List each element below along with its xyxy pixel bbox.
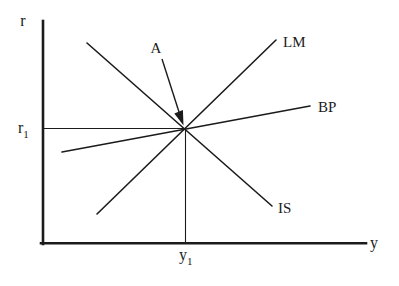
is-curve-label: IS: [278, 200, 291, 216]
vertical-axis-label: r: [20, 12, 26, 29]
point-a-label: A: [151, 40, 162, 56]
diagram-canvas: r y A LM BP IS r1 y1: [0, 0, 399, 286]
y1-tick-subscript: 1: [187, 255, 193, 267]
horizontal-axis-label: y: [370, 234, 378, 252]
lm-curve-label: LM: [283, 34, 306, 50]
bp-curve-label: BP: [318, 99, 336, 115]
r1-tick-subscript: 1: [23, 128, 29, 140]
y1-tick-label: y1: [179, 246, 193, 267]
annotation-arrow-shaft: [162, 59, 179, 112]
r1-tick-label: r1: [18, 119, 29, 140]
is-curve: [87, 43, 272, 206]
lm-curve: [97, 40, 276, 214]
islm-bp-diagram: r y A LM BP IS r1 y1: [0, 0, 399, 286]
y1-tick-base: y: [179, 246, 187, 264]
